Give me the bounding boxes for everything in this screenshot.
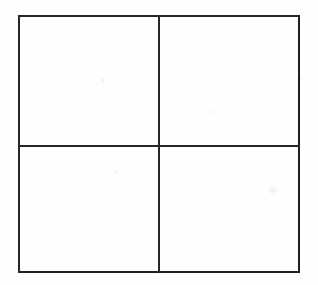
vertical-divider-line bbox=[158, 15, 160, 273]
frame-right-border bbox=[298, 15, 300, 273]
cell-bottom-left[interactable] bbox=[18, 145, 158, 271]
cell-top-left[interactable] bbox=[18, 15, 158, 145]
cell-bottom-right[interactable] bbox=[158, 145, 298, 271]
cell-top-right[interactable] bbox=[158, 15, 298, 145]
scan-speck bbox=[300, 76, 303, 79]
figure-canvas bbox=[0, 0, 318, 285]
horizontal-divider-line bbox=[18, 145, 300, 147]
frame-left-border bbox=[18, 15, 20, 273]
